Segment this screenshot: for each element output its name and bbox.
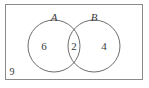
set-b-only-count: 4	[101, 40, 107, 52]
set-a-label: A	[50, 11, 58, 23]
venn-diagram-svg: A B 6 2 4 9	[0, 0, 149, 88]
intersection-count: 2	[71, 40, 77, 52]
set-b-label: B	[91, 11, 98, 23]
venn-diagram-figure: A B 6 2 4 9	[0, 0, 149, 88]
set-a-only-count: 6	[41, 40, 47, 52]
universe-outside-count: 9	[10, 66, 15, 77]
